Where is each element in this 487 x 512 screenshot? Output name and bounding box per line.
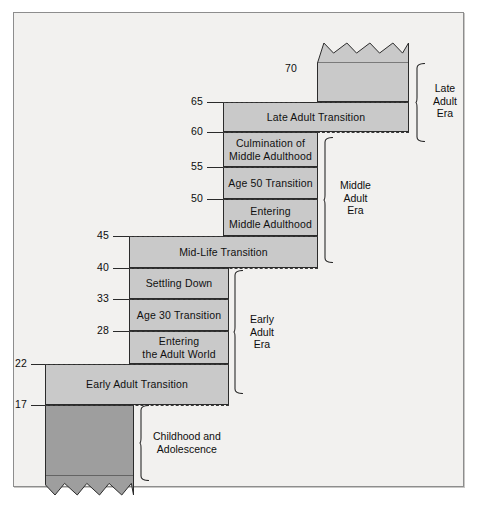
age-tick-tick-65 bbox=[207, 102, 223, 103]
age-tick-tick-45 bbox=[113, 236, 129, 237]
band-mid-life-transition: Mid-Life Transition bbox=[129, 236, 318, 268]
age-tick-tick-17 bbox=[31, 405, 45, 406]
era-label-early-adult-era: EarlyAdultEra bbox=[250, 313, 274, 351]
band-label-entering-adult-world: Enteringthe Adult World bbox=[139, 335, 218, 360]
band-entering-middle: EnteringMiddle Adulthood bbox=[223, 199, 318, 236]
band-label-entering-middle: EnteringMiddle Adulthood bbox=[226, 205, 315, 230]
age-label-55: 55 bbox=[175, 161, 203, 172]
separator-sep-28 bbox=[129, 331, 229, 332]
band-label-early-adult-transition: Early Adult Transition bbox=[83, 378, 191, 391]
age-tick-tick-60 bbox=[207, 132, 223, 133]
bracket-middle-adult-era bbox=[323, 137, 334, 263]
zigzag-late-adulthood bbox=[317, 41, 409, 63]
band-label-culmination: Culmination ofMiddle Adulthood bbox=[226, 137, 315, 162]
age-label-50: 50 bbox=[175, 193, 203, 204]
age-label-22: 22 bbox=[0, 358, 27, 369]
band-label-age-50-transition: Age 50 Transition bbox=[225, 177, 315, 190]
age-label-65: 65 bbox=[175, 96, 203, 107]
age-label-60: 60 bbox=[175, 126, 203, 137]
band-early-adult-transition: Early Adult Transition bbox=[45, 364, 229, 405]
separator-sep-33 bbox=[129, 299, 229, 300]
age-label-33: 33 bbox=[81, 293, 109, 304]
bracket-early-adult-era bbox=[233, 270, 244, 394]
age-label-40: 40 bbox=[81, 262, 109, 273]
age-label-45: 45 bbox=[81, 230, 109, 241]
band-entering-adult-world: Enteringthe Adult World bbox=[129, 331, 229, 364]
band-age-30-transition: Age 30 Transition bbox=[129, 299, 229, 331]
diagram-frame: Late Adult TransitionCulmination ofMiddl… bbox=[13, 12, 464, 487]
band-late-adult-transition: Late Adult Transition bbox=[223, 102, 409, 132]
band-settling-down: Settling Down bbox=[129, 268, 229, 299]
band-label-settling-down: Settling Down bbox=[143, 277, 216, 290]
separator-sep-60 bbox=[223, 132, 409, 133]
band-late-adulthood bbox=[317, 63, 409, 102]
diagram-canvas: Late Adult TransitionCulmination ofMiddl… bbox=[0, 0, 487, 512]
separator-sep-40 bbox=[129, 268, 318, 269]
separator-sep-50 bbox=[223, 199, 318, 200]
era-label-late-adult-era: LateAdultEra bbox=[433, 82, 457, 120]
band-culmination: Culmination ofMiddle Adulthood bbox=[223, 132, 318, 167]
age-label-28: 28 bbox=[81, 325, 109, 336]
age-tick-tick-22 bbox=[31, 364, 45, 365]
separator-sep-22 bbox=[45, 364, 229, 365]
bracket-childhood-bracket bbox=[139, 405, 150, 481]
age-tick-tick-28 bbox=[113, 331, 129, 332]
age-tick-tick-55 bbox=[207, 167, 223, 168]
separator-sep-55 bbox=[223, 167, 318, 168]
era-label-childhood-bracket: Childhood andAdolescence bbox=[153, 430, 221, 455]
age-tick-tick-50 bbox=[207, 199, 223, 200]
zigzag-childhood-adolescence bbox=[45, 475, 134, 497]
band-age-50-transition: Age 50 Transition bbox=[223, 167, 318, 199]
age-label-17: 17 bbox=[0, 399, 27, 410]
bracket-late-adult-era bbox=[415, 63, 426, 142]
separator-sep-17 bbox=[45, 405, 229, 406]
separator-sep-45 bbox=[129, 236, 318, 237]
age-label-70: 70 bbox=[269, 63, 297, 74]
band-label-mid-life-transition: Mid-Life Transition bbox=[176, 246, 271, 259]
era-label-middle-adult-era: MiddleAdultEra bbox=[340, 179, 371, 217]
band-label-age-30-transition: Age 30 Transition bbox=[134, 309, 224, 322]
age-tick-tick-33 bbox=[113, 299, 129, 300]
band-label-late-adult-transition: Late Adult Transition bbox=[264, 111, 368, 124]
age-tick-tick-40 bbox=[113, 268, 129, 269]
age-tick-tick-70 bbox=[301, 102, 317, 103]
band-childhood-adolescence bbox=[45, 405, 134, 476]
